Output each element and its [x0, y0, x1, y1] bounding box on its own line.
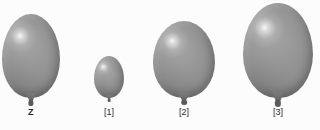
balloon-body [153, 21, 215, 98]
balloon-knot [108, 99, 111, 102]
balloon-body [243, 3, 313, 98]
balloon-label-1: [1] [104, 107, 114, 117]
balloon-scene: Z [1] [2] [3] [0, 0, 320, 130]
balloon-label-z: Z [28, 107, 34, 117]
balloon-2 [153, 21, 215, 98]
balloon-1 [94, 56, 124, 98]
balloon-label-3: [3] [273, 107, 283, 117]
balloon-knot [275, 100, 281, 106]
balloon-3 [243, 3, 313, 98]
balloon-label-2: [2] [179, 107, 189, 117]
balloon-body [94, 56, 124, 98]
balloon-z [2, 14, 60, 98]
balloon-knot [181, 100, 187, 105]
balloon-body [2, 14, 60, 98]
balloon-knot [28, 100, 33, 105]
